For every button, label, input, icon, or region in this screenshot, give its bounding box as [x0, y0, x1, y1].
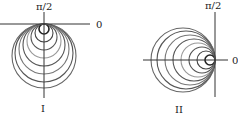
- figure-ii: 0 π/2 II: [143, 0, 238, 115]
- figure-ii-caption: II: [175, 104, 183, 115]
- figure-i-zero-label: 0: [96, 19, 102, 30]
- figure-ii-zero-label: 0: [232, 55, 238, 66]
- figure-i: 0 π/2 I: [0, 1, 102, 114]
- figure-i-half-pi-label: π/2: [36, 1, 52, 12]
- figure-i-caption: I: [41, 103, 45, 114]
- polar-circles-diagram: 0 π/2 I 0 π/2 II: [0, 0, 238, 118]
- figure-ii-half-pi-label: π/2: [205, 0, 221, 11]
